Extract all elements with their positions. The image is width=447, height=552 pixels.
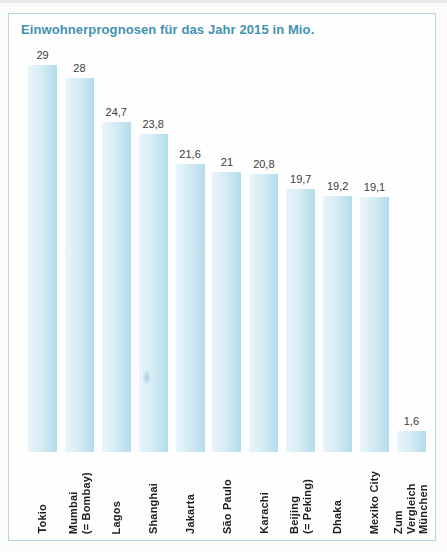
bar-value-label: 21,6 xyxy=(179,148,200,160)
bar xyxy=(65,78,94,452)
bar xyxy=(28,65,57,452)
category-label: Mumbai (= Bombay) xyxy=(67,472,92,534)
bar xyxy=(139,134,168,452)
category-label-cell: Tokio xyxy=(28,460,57,534)
category-label-cell: Karachi xyxy=(249,460,278,534)
category-label-cell: Beijing (= Peking) xyxy=(286,460,315,534)
bar xyxy=(212,172,241,452)
category-label: Dhaka xyxy=(331,500,344,534)
bar-value-label: 20,8 xyxy=(253,158,274,170)
scan-artifact-mark xyxy=(142,369,151,386)
bars-row: 29 28 24,7 23,8 21,6 21 20,8 19,7 19,2 1… xyxy=(28,14,426,452)
bar-value-label: 21 xyxy=(221,156,233,168)
category-label-cell: Jakarta xyxy=(176,460,205,534)
bar-column: 20,8 xyxy=(249,14,278,452)
category-label-cell: Mumbai (= Bombay) xyxy=(65,460,94,534)
category-label-cell: Mexiko City xyxy=(360,460,389,534)
bar-column: 24,7 xyxy=(102,14,131,452)
category-label: Beijing (= Peking) xyxy=(288,479,313,534)
category-label: Tokio xyxy=(36,504,49,534)
category-label: Shanghai xyxy=(147,483,160,534)
bar-value-label: 1,6 xyxy=(404,415,419,427)
bar-column: 19,2 xyxy=(323,14,352,452)
chart-frame: Einwohnerprognosen für das Jahr 2015 in … xyxy=(8,13,436,541)
bar xyxy=(360,197,389,452)
category-label-cell: Shanghai xyxy=(139,460,168,534)
scan-edge-shadow xyxy=(0,0,447,3)
bar-column: 19,1 xyxy=(360,14,389,452)
category-label: São Paulo xyxy=(221,479,234,534)
bar-column: 23,8 xyxy=(139,14,168,452)
bar-column: 29 xyxy=(28,14,57,452)
category-label: Jakarta xyxy=(184,494,197,534)
bar-value-label: 19,2 xyxy=(327,180,348,192)
bar-column: 28 xyxy=(65,14,94,452)
bar xyxy=(249,174,278,452)
bar-column: 1,6 xyxy=(397,14,426,452)
category-label: Zum Vergleich München xyxy=(392,460,430,534)
bar-value-label: 19,7 xyxy=(290,173,311,185)
category-label: Mexiko City xyxy=(368,471,381,534)
bar-value-label: 23,8 xyxy=(142,118,163,130)
bar-column: 21 xyxy=(212,14,241,452)
bar-value-label: 29 xyxy=(36,49,48,61)
bar xyxy=(323,196,352,452)
category-labels-row: Tokio Mumbai (= Bombay) Lagos Shanghai J… xyxy=(28,460,426,534)
bar xyxy=(102,122,131,452)
category-label-cell: São Paulo xyxy=(212,460,241,534)
category-label: Lagos xyxy=(110,501,123,534)
category-label: Karachi xyxy=(258,492,271,534)
bar-column: 19,7 xyxy=(286,14,315,452)
bar-value-label: 28 xyxy=(73,62,85,74)
bar-value-label: 24,7 xyxy=(106,106,127,118)
bar xyxy=(286,189,315,452)
category-label-cell: Dhaka xyxy=(323,460,352,534)
category-label-cell: Lagos xyxy=(102,460,131,534)
bar-column: 21,6 xyxy=(176,14,205,452)
bar-value-label: 19,1 xyxy=(364,181,385,193)
bar xyxy=(176,164,205,452)
bar xyxy=(397,431,426,452)
category-label-cell: Zum Vergleich München xyxy=(397,460,426,534)
